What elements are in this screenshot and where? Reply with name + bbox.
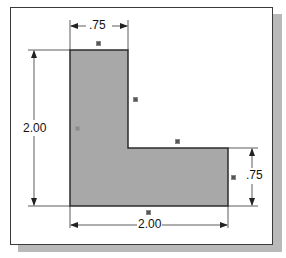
horizontal-constraint-icon[interactable]	[96, 41, 101, 46]
dimension-top-width[interactable]: .75	[88, 19, 107, 32]
l-shape-profile[interactable]	[70, 50, 228, 206]
vertical-constraint-icon[interactable]	[231, 175, 236, 180]
dimension-right-height[interactable]: .75	[245, 169, 264, 182]
horizontal-constraint-icon[interactable]	[175, 139, 180, 144]
vertical-constraint-icon[interactable]	[75, 126, 80, 131]
dimension-left-height[interactable]: 2.00	[22, 122, 47, 135]
vertical-constraint-icon[interactable]	[133, 97, 138, 102]
dimension-bottom-width[interactable]: 2.00	[137, 218, 162, 231]
horizontal-constraint-icon[interactable]	[146, 210, 151, 215]
